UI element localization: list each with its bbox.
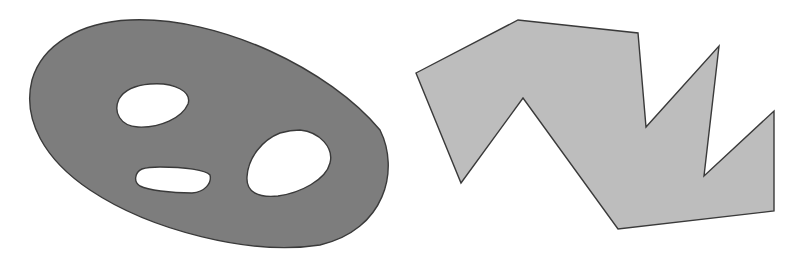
figure-canvas — [0, 0, 802, 257]
